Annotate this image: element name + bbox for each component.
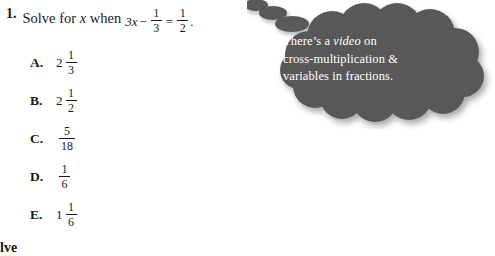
prompt-text-after: when <box>86 10 121 26</box>
choice-value: 2 1 2 <box>56 88 79 115</box>
footer-clipped-word: olve <box>0 240 17 256</box>
prompt-text-before: Solve for <box>23 10 80 26</box>
mixed-number-whole: 2 <box>56 55 63 71</box>
equation-lhs-term: 3x <box>125 13 137 31</box>
trail-bubble-large <box>275 16 309 32</box>
choice-fraction: 1 6 <box>59 163 70 190</box>
mixed-number-whole: 2 <box>56 93 63 109</box>
equation-equals-operator: = <box>166 13 173 31</box>
choice-letter: A. <box>30 55 52 71</box>
fraction-denominator: 3 <box>66 63 76 76</box>
choice-letter: D. <box>30 169 52 185</box>
bubble-line2: cross-multiplication & <box>283 52 398 66</box>
answer-choice-c[interactable]: C. 5 18 <box>30 120 210 158</box>
thought-trail-bubbles <box>247 0 309 32</box>
choice-fraction: 1 3 <box>66 49 77 76</box>
fraction-numerator: 1 <box>178 7 188 20</box>
bubble-line1-after: on <box>361 34 377 48</box>
equation-minus-operator: − <box>139 13 146 31</box>
choice-value: 1 1 6 <box>56 202 79 229</box>
bubble-line1-italic-word: video <box>333 34 361 48</box>
choice-letter: E. <box>30 207 52 223</box>
thought-bubble: There’s a video on cross-multiplication … <box>247 0 495 130</box>
fraction-numerator: 1 <box>66 87 76 100</box>
fraction-denominator: 18 <box>59 139 75 152</box>
mixed-number-whole: 1 <box>56 207 63 223</box>
answer-choice-b[interactable]: B. 2 1 2 <box>30 82 210 120</box>
equation-period: . <box>190 13 193 31</box>
fraction-numerator: 5 <box>62 125 72 138</box>
fraction-denominator: 6 <box>60 177 70 190</box>
choice-value: 1 6 <box>56 164 72 191</box>
answer-choice-e[interactable]: E. 1 1 6 <box>30 196 210 234</box>
fraction-denominator: 6 <box>66 215 76 228</box>
question-number: 1. <box>6 5 17 23</box>
fraction-denominator: 2 <box>178 21 188 34</box>
choice-value: 5 18 <box>56 126 77 153</box>
question-prompt: Solve for x when 3x − 1 3 = 1 2 . <box>23 5 194 32</box>
bubble-line1-before: There’s a <box>283 34 333 48</box>
answer-choice-list: A. 2 1 3 B. 2 1 2 C. 5 1 <box>30 44 210 234</box>
equation-fraction-one: 1 3 <box>151 7 162 34</box>
fraction-denominator: 3 <box>151 21 161 34</box>
fraction-numerator: 1 <box>151 7 161 20</box>
fraction-numerator: 1 <box>66 201 76 214</box>
fraction-numerator: 1 <box>66 49 76 62</box>
thought-bubble-text: There’s a video on cross-multiplication … <box>283 33 463 86</box>
answer-choice-a[interactable]: A. 2 1 3 <box>30 44 210 82</box>
equation: 3x − 1 3 = 1 2 . <box>125 8 193 35</box>
question-stem: 1. Solve for x when 3x − 1 3 = 1 2 . <box>6 5 193 32</box>
footer-clipped-heading: olve <box>0 240 17 256</box>
choice-value: 2 1 3 <box>56 50 79 77</box>
answer-choice-d[interactable]: D. 1 6 <box>30 158 210 196</box>
choice-fraction: 1 6 <box>66 201 77 228</box>
fraction-numerator: 1 <box>60 163 70 176</box>
choice-fraction: 1 2 <box>66 87 77 114</box>
choice-letter: B. <box>30 93 52 109</box>
choice-fraction: 5 18 <box>59 125 75 152</box>
fraction-denominator: 2 <box>66 101 76 114</box>
equation-fraction-two: 1 2 <box>177 7 188 34</box>
bubble-line3: variables in fractions. <box>283 69 393 83</box>
choice-letter: C. <box>30 131 52 147</box>
